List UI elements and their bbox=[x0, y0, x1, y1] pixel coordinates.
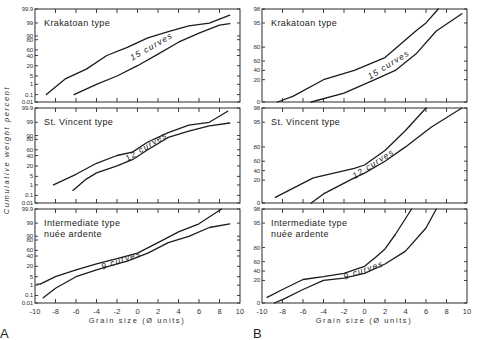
panel-title: Krakatoan type bbox=[44, 18, 110, 28]
y-tick-label: 0.1 bbox=[25, 91, 34, 98]
y-tick-label: 99.9 bbox=[22, 5, 34, 12]
y-tick-label: 40 bbox=[27, 252, 34, 259]
y-tick-label: 95 bbox=[254, 118, 261, 125]
y-tick-label: 0.01 bbox=[22, 299, 34, 306]
y-tick-label: 99 bbox=[27, 19, 34, 26]
y-tick-label: 0.1 bbox=[25, 291, 34, 298]
panel-letter-a: A bbox=[0, 326, 9, 340]
y-tick-label: 80 bbox=[27, 36, 34, 43]
y-tick-label: 40 bbox=[254, 66, 261, 73]
curve-count-label: 9 curves bbox=[100, 249, 143, 272]
y-tick-label: 40 bbox=[27, 152, 34, 159]
x-tick-label: 0 bbox=[135, 307, 139, 316]
y-tick-label: 1 bbox=[30, 281, 34, 288]
y-tick-label: 40 bbox=[27, 52, 34, 59]
figure: 99.9999080604020510.10.01Krakatoan type1… bbox=[0, 0, 477, 340]
panel-title: St. Vincent type bbox=[44, 117, 113, 127]
x-tick-label: 8 bbox=[217, 307, 221, 316]
envelope-curve bbox=[73, 123, 230, 190]
y-axis-title: Cumulative weight percent bbox=[2, 86, 11, 214]
x-tick-label: -2 bbox=[341, 307, 348, 316]
panel-title: Krakatoan type bbox=[271, 18, 337, 28]
x-tick-label: -10 bbox=[257, 307, 268, 316]
x-tick-label: -6 bbox=[73, 307, 80, 316]
y-tick-label: 1 bbox=[30, 181, 34, 188]
chart-panel: 9895806040200Intermediate typenuée arden… bbox=[254, 205, 472, 316]
y-tick-label: 80 bbox=[27, 135, 34, 142]
y-tick-label: 99 bbox=[27, 219, 34, 226]
x-tick-label: 0 bbox=[362, 307, 366, 316]
y-tick-label: 5 bbox=[30, 172, 34, 179]
y-tick-label: 98 bbox=[254, 104, 261, 111]
y-tick-label: 60 bbox=[254, 258, 261, 265]
y-tick-label: 5 bbox=[30, 72, 34, 79]
curve-count-label: 15 curves bbox=[366, 48, 412, 82]
panel-title: Intermediate type bbox=[44, 218, 120, 228]
y-tick-label: 0.1 bbox=[25, 191, 34, 198]
x-axis-title-a: Grain size (Ø units) bbox=[89, 316, 186, 325]
chart-panel: 99.9999080604020510.10.01St. Vincent typ… bbox=[22, 104, 240, 206]
y-tick-label: 95 bbox=[254, 219, 261, 226]
panels: 99.9999080604020510.10.01Krakatoan type1… bbox=[22, 5, 471, 316]
panel-title: nuée ardente bbox=[44, 229, 102, 239]
y-tick-label: 80 bbox=[254, 43, 261, 50]
y-tick-label: 60 bbox=[254, 157, 261, 164]
x-tick-label: 4 bbox=[176, 307, 180, 316]
panel-letter-b: B bbox=[253, 326, 262, 340]
x-tick-label: 10 bbox=[463, 307, 471, 316]
panel-title: St. Vincent type bbox=[271, 117, 340, 127]
x-tick-label: -4 bbox=[93, 307, 100, 316]
x-tick-label: -8 bbox=[52, 307, 59, 316]
x-tick-label: -4 bbox=[320, 307, 327, 316]
y-tick-label: 40 bbox=[254, 167, 261, 174]
x-tick-label: -6 bbox=[300, 307, 307, 316]
panel-title: nuée ardente bbox=[271, 229, 329, 239]
envelope-curve bbox=[74, 24, 230, 95]
curve-count-label: 12 curves bbox=[123, 130, 169, 164]
x-tick-label: 6 bbox=[197, 307, 201, 316]
x-tick-label: 4 bbox=[403, 307, 407, 316]
y-tick-label: 1 bbox=[30, 80, 34, 87]
y-tick-label: 20 bbox=[27, 162, 34, 169]
x-tick-label: 8 bbox=[444, 307, 448, 316]
y-tick-label: 5 bbox=[30, 273, 34, 280]
curve-count-label: 9 curves bbox=[342, 259, 385, 282]
y-tick-label: 80 bbox=[27, 236, 34, 243]
x-tick-label: -8 bbox=[279, 307, 286, 316]
x-tick-label: 2 bbox=[156, 307, 160, 316]
chart-panel: 9895806040200St. Vincent type12 curves bbox=[254, 104, 467, 206]
y-tick-label: 20 bbox=[27, 262, 34, 269]
y-tick-label: 40 bbox=[254, 267, 261, 274]
y-tick-label: 95 bbox=[254, 19, 261, 26]
y-tick-label: 0 bbox=[257, 299, 261, 306]
x-tick-label: -2 bbox=[114, 307, 121, 316]
y-tick-label: 60 bbox=[254, 57, 261, 64]
x-axis-title-b: Grain size (Ø units) bbox=[316, 316, 413, 325]
y-tick-label: 98 bbox=[254, 5, 261, 12]
panel-title: Intermediate type bbox=[271, 218, 347, 228]
y-tick-label: 99 bbox=[27, 118, 34, 125]
x-tick-label: 10 bbox=[236, 307, 244, 316]
x-tick-label: -10 bbox=[30, 307, 41, 316]
y-tick-label: 80 bbox=[254, 244, 261, 251]
curve-count-label: 12 curves bbox=[350, 147, 396, 181]
y-tick-label: 98 bbox=[254, 205, 261, 212]
chart-panel: 99.9999080604020510.10.01Krakatoan type1… bbox=[22, 5, 240, 105]
y-tick-label: 20 bbox=[27, 62, 34, 69]
y-tick-label: 80 bbox=[254, 143, 261, 150]
y-tick-label: 20 bbox=[254, 276, 261, 283]
chart-panel: 99.9999080604020510.10.01Intermediate ty… bbox=[22, 205, 244, 316]
y-tick-label: 20 bbox=[254, 76, 261, 83]
y-tick-label: 99.9 bbox=[22, 205, 34, 212]
x-tick-label: 6 bbox=[424, 307, 428, 316]
y-tick-label: 99.9 bbox=[22, 104, 34, 111]
x-tick-label: 2 bbox=[383, 307, 387, 316]
y-tick-label: 20 bbox=[254, 176, 261, 183]
chart-panel: 9895806040200Krakatoan type15 curves bbox=[254, 5, 467, 105]
